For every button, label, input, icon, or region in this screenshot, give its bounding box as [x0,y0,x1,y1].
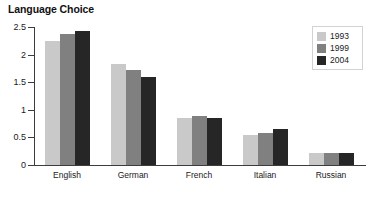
y-axis-tick-label: 1 [21,105,26,115]
x-axis-category-label: German [100,170,166,180]
bar[interactable] [60,34,75,165]
bar[interactable] [243,135,258,165]
legend-item-label: 1993 [330,31,349,41]
legend-color-swatch [317,44,326,53]
x-axis-category-label: Italian [232,170,298,180]
bar[interactable] [126,70,141,165]
bar-group-bars [177,27,222,165]
y-axis-tick-label: 2.5 [13,22,26,32]
bar[interactable] [141,77,156,165]
legend-color-swatch [317,56,326,65]
y-axis-tick: 2.5 [0,27,34,28]
legend-item[interactable]: 1993 [317,30,359,42]
bar-group-bars [45,27,90,165]
bar[interactable] [177,118,192,165]
y-axis-tick: 0.5 [0,137,34,138]
bar-group-bars [111,27,156,165]
bar[interactable] [309,153,324,165]
x-axis-category-label: English [34,170,100,180]
bar-group: English [34,27,100,165]
bar[interactable] [111,64,126,165]
bar[interactable] [258,133,273,165]
bar[interactable] [273,129,288,165]
bar-group: French [166,27,232,165]
y-axis-tick-label: 1.5 [13,77,26,87]
legend-item-label: 1999 [330,43,349,53]
legend-color-swatch [317,32,326,41]
y-axis-tick: 1 [0,110,34,111]
y-axis-tick: 2 [0,55,34,56]
bar[interactable] [75,31,90,165]
legend-item[interactable]: 2004 [317,54,359,66]
bar[interactable] [339,153,354,165]
y-axis-tick-label: 2 [21,50,26,60]
bar[interactable] [45,41,60,165]
bar-group: German [100,27,166,165]
bar-group-bars [243,27,288,165]
y-axis-tick-label: 0 [21,160,26,170]
y-axis-tick-label: 0.5 [13,132,26,142]
bar-chart: Language Choice 00.511.522.5 EnglishGerm… [0,0,370,197]
legend-item-label: 2004 [330,55,349,65]
bar-group: Italian [232,27,298,165]
bar[interactable] [207,118,222,165]
y-axis-tick: 1.5 [0,82,34,83]
chart-legend: 199319992004 [312,26,363,70]
bar[interactable] [324,153,339,165]
y-axis-tick: 0 [0,165,34,166]
y-axis-tick-mark [28,165,34,166]
bar[interactable] [192,116,207,165]
legend-item[interactable]: 1999 [317,42,359,54]
x-axis-category-label: French [166,170,232,180]
x-axis-category-label: Russian [298,170,364,180]
